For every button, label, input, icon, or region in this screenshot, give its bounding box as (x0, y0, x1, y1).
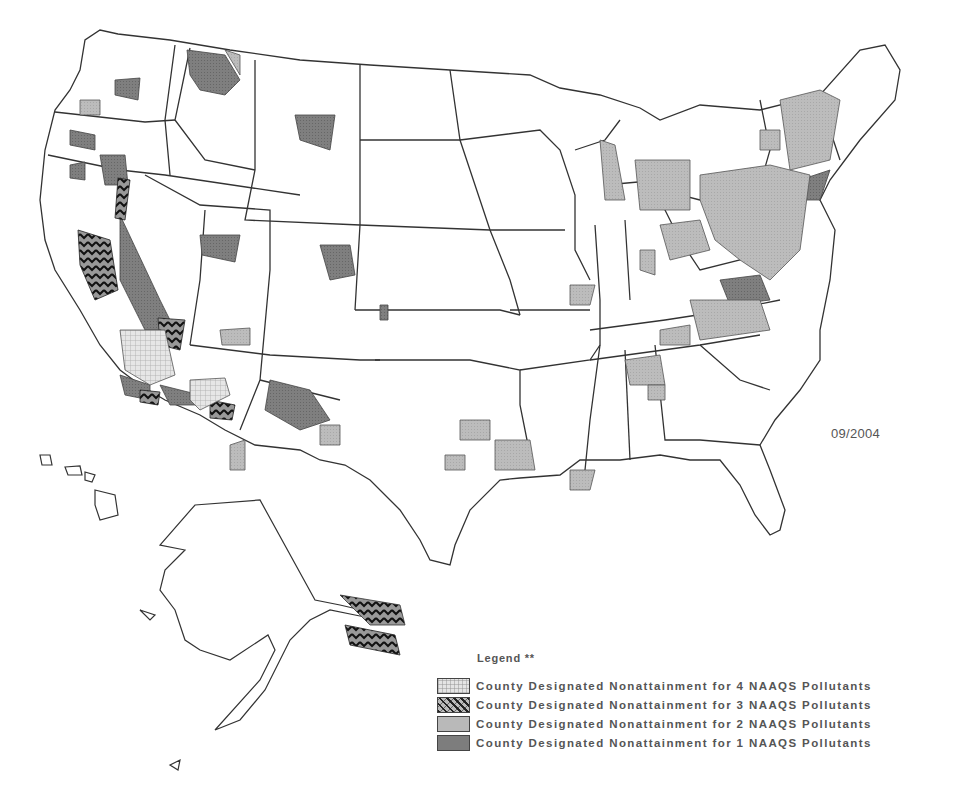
crosshatch-swatch-icon (437, 678, 470, 694)
legend-item-3-pollutants: County Designated Nonattainment for 3 NA… (437, 695, 872, 714)
legend-label: County Designated Nonattainment for 4 NA… (476, 680, 872, 692)
chevron-swatch-icon (437, 697, 470, 713)
legend-label: County Designated Nonattainment for 1 NA… (476, 737, 872, 749)
legend-item-2-pollutants: County Designated Nonattainment for 2 NA… (437, 714, 872, 733)
date-label: 09/2004 (831, 426, 880, 441)
state-borders (40, 30, 900, 565)
contiguous-us-outline (40, 30, 900, 565)
light-gray-swatch-icon (437, 716, 470, 732)
dark-gray-swatch-icon (437, 735, 470, 751)
legend-title: Legend ** (477, 652, 872, 664)
legend-item-1-pollutant: County Designated Nonattainment for 1 NA… (437, 733, 872, 752)
legend-label: County Designated Nonattainment for 3 NA… (476, 699, 872, 711)
legend-item-4-pollutants: County Designated Nonattainment for 4 NA… (437, 676, 872, 695)
hawaii (40, 455, 118, 520)
legend-label: County Designated Nonattainment for 2 NA… (476, 718, 872, 730)
legend: Legend ** County Designated Nonattainmen… (437, 652, 872, 752)
